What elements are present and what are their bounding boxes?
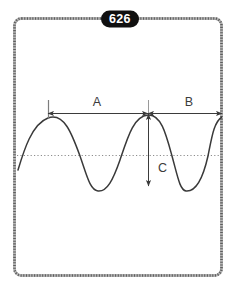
figure-frame [15,19,222,276]
frame-outline-base [15,19,222,276]
badge-label: 626 [109,12,131,26]
dimension-label-a: A [93,95,102,109]
dimension-label-c: C [158,161,167,175]
figure-number-badge: 626 [101,11,139,28]
figure-container: A B C 626 [0,0,236,292]
dimension-label-b: B [185,95,193,109]
